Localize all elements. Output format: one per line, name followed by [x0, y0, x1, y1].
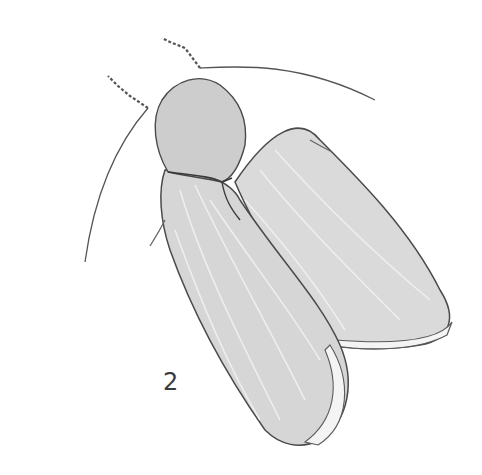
thorax — [155, 79, 245, 182]
moth-illustration — [0, 0, 482, 475]
illustration-canvas: 2 — [0, 0, 482, 475]
figure-number: 2 — [163, 370, 178, 394]
